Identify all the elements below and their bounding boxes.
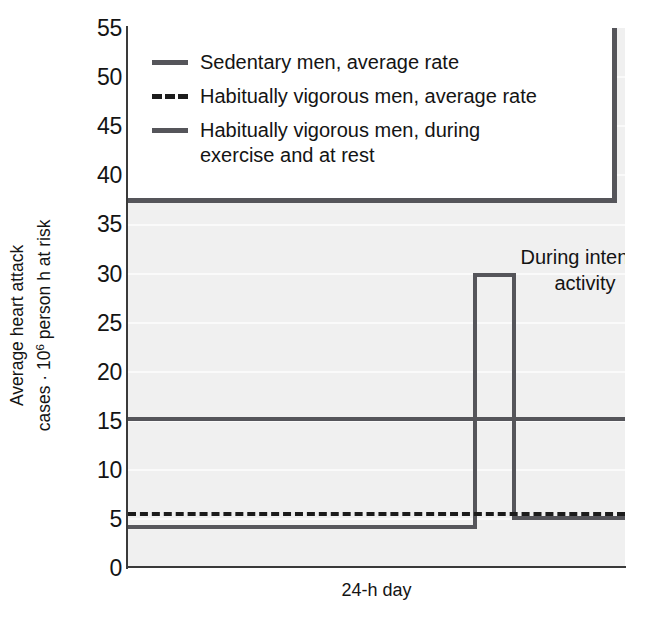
y-axis-line [126, 26, 128, 569]
y-tick-15: 15 [76, 410, 122, 433]
gridline-25 [128, 322, 625, 324]
y-axis-title-line2-post: person h at risk [34, 220, 54, 345]
series-step-rising-edge [473, 273, 477, 529]
plot-area: Sedentary men, average rate Habitually v… [128, 28, 625, 567]
series-step-baseline-left [128, 525, 477, 529]
series-step-baseline-right [512, 516, 625, 520]
legend-item-vigorous-exercise: Habitually vigorous men, during exercise… [152, 118, 612, 168]
gridline-20 [128, 371, 625, 373]
series-vigorous-average-line [128, 512, 625, 516]
legend-swatch-dashed-icon [152, 86, 188, 106]
series-sedentary-average-line [128, 417, 625, 421]
y-tick-5: 5 [76, 508, 122, 531]
y-tick-40: 40 [76, 164, 122, 187]
legend-item-vigorous-average: Habitually vigorous men, average rate [152, 84, 612, 109]
y-axis-title-line2-pre: cases · 10 [34, 351, 54, 432]
y-tick-0: 0 [76, 557, 122, 580]
annotation-during-intense-activity: During intense activity [480, 244, 625, 296]
y-tick-10: 10 [76, 459, 122, 482]
x-axis-title: 24-h day [128, 580, 625, 601]
x-axis-line [126, 566, 626, 568]
y-tick-30: 30 [76, 263, 122, 286]
chart-figure: Sedentary men, average rate Habitually v… [0, 0, 648, 635]
legend-item-sedentary: Sedentary men, average rate [152, 50, 612, 75]
legend-swatch-solid-2-icon [152, 120, 188, 140]
gridline-35 [128, 224, 625, 226]
y-tick-50: 50 [76, 66, 122, 89]
y-tick-35: 35 [76, 213, 122, 236]
legend-label-vigorous-average: Habitually vigorous men, average rate [200, 84, 537, 109]
y-axis-title: Average heart attackcases · 106 person h… [6, 145, 57, 505]
y-tick-45: 45 [76, 115, 122, 138]
legend-label-vigorous-exercise: Habitually vigorous men, during exercise… [200, 118, 480, 168]
legend: Sedentary men, average rate Habitually v… [128, 28, 617, 203]
y-axis-tick-labels: 55 50 45 40 35 30 25 20 15 10 5 0 [66, 0, 122, 635]
y-tick-20: 20 [76, 361, 122, 384]
gridline-10 [128, 469, 625, 471]
series-step-falling-edge [512, 273, 516, 519]
y-axis-title-exponent: 6 [34, 344, 46, 350]
legend-swatch-solid-icon [152, 52, 188, 72]
legend-label-sedentary: Sedentary men, average rate [200, 50, 459, 75]
y-tick-55: 55 [76, 17, 122, 40]
y-tick-25: 25 [76, 312, 122, 335]
y-axis-title-line1: Average heart attack [7, 245, 27, 406]
